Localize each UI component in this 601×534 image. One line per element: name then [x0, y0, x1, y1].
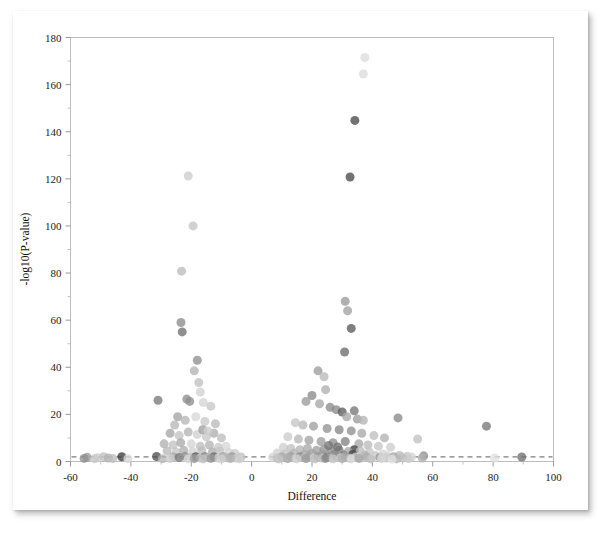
scatter-point — [226, 454, 235, 463]
scatter-point — [346, 172, 355, 181]
scatter-point — [329, 454, 338, 463]
scatter-point — [154, 396, 163, 405]
y-tick-label: 20 — [51, 408, 63, 420]
scatter-point — [490, 453, 499, 462]
scatter-point — [217, 454, 226, 463]
scatter-point — [211, 419, 220, 428]
scatter-point — [404, 454, 413, 463]
scatter-point — [235, 454, 244, 463]
y-tick-label: 120 — [45, 173, 62, 185]
scatter-point — [193, 356, 202, 365]
y-tick-label: 60 — [51, 314, 63, 326]
x-tick-label: 60 — [427, 471, 439, 483]
scatter-point — [482, 422, 491, 431]
scatter-point — [366, 454, 375, 463]
scatter-point — [360, 53, 369, 62]
scatter-point — [388, 455, 397, 464]
data-points-group — [80, 53, 527, 464]
scatter-point — [517, 453, 526, 462]
scatter-point — [190, 454, 199, 463]
y-axis-ticks: 020406080100120140160180 — [45, 32, 71, 468]
scatter-point — [294, 435, 303, 444]
y-tick-label: 40 — [51, 361, 63, 373]
screenshot-root: 020406080100120140160180 -60-40-20020406… — [0, 0, 601, 534]
scatter-point — [354, 454, 363, 463]
scatter-point — [292, 454, 301, 463]
scatter-point — [274, 454, 283, 463]
scatter-point — [413, 435, 422, 444]
x-tick-label: 20 — [307, 471, 319, 483]
scatter-point — [301, 397, 310, 406]
scatter-point — [341, 437, 350, 446]
y-tick-label: 140 — [45, 126, 62, 138]
scatter-point — [386, 443, 395, 452]
scatter-point — [206, 402, 215, 411]
scatter-point — [200, 417, 209, 426]
x-tick-label: 40 — [367, 471, 379, 483]
scatter-point — [166, 429, 175, 438]
scatter-point — [304, 436, 313, 445]
scatter-point — [187, 439, 196, 448]
scatter-point — [203, 426, 212, 435]
x-axis-title: Difference — [288, 490, 337, 502]
scatter-point — [359, 70, 368, 79]
y-tick-label: 100 — [45, 220, 62, 232]
scatter-point — [357, 429, 366, 438]
scatter-point — [311, 454, 320, 463]
scatter-point — [340, 347, 349, 356]
scatter-point — [108, 454, 117, 463]
scatter-point — [321, 385, 330, 394]
scatter-point — [418, 453, 427, 462]
scatter-point — [369, 431, 378, 440]
y-tick-label: 80 — [51, 267, 63, 279]
x-tick-label: 0 — [249, 471, 255, 483]
scatter-point — [323, 424, 332, 433]
scatter-point — [166, 454, 175, 463]
scatter-point — [217, 433, 226, 442]
scatter-point — [309, 422, 318, 431]
scatter-point — [298, 420, 307, 429]
scatter-point — [341, 297, 350, 306]
scatter-point — [194, 378, 203, 387]
x-tick-label: -20 — [184, 471, 199, 483]
scatter-point — [123, 454, 132, 463]
volcano-plot-svg: 020406080100120140160180 -60-40-20020406… — [13, 11, 588, 510]
y-tick-label: 180 — [45, 32, 62, 44]
x-tick-label: -60 — [63, 471, 78, 483]
x-tick-label: 100 — [545, 471, 562, 483]
scatter-point — [338, 454, 347, 463]
figure-card: 020406080100120140160180 -60-40-20020406… — [13, 11, 588, 510]
y-tick-label: 160 — [45, 79, 62, 91]
scatter-point — [283, 432, 292, 441]
scatter-point — [206, 454, 215, 463]
scatter-point — [347, 324, 356, 333]
scatter-point — [191, 412, 200, 421]
scatter-point — [181, 416, 190, 425]
scatter-point — [185, 397, 194, 406]
scatter-point — [333, 442, 342, 451]
scatter-point — [380, 433, 389, 442]
y-axis-title: -log10(P-value) — [19, 212, 32, 285]
scatter-point — [347, 426, 356, 435]
scatter-point — [335, 425, 344, 434]
scatter-point — [190, 366, 199, 375]
scatter-point — [324, 441, 333, 450]
scatter-point — [178, 327, 187, 336]
scatter-point — [301, 454, 310, 463]
x-tick-label: -40 — [124, 471, 139, 483]
scatter-point — [170, 420, 179, 429]
scatter-point — [315, 399, 324, 408]
scatter-point — [394, 413, 403, 422]
scatter-point — [176, 318, 185, 327]
scatter-point — [184, 172, 193, 181]
scatter-point — [90, 454, 99, 463]
scatter-point — [189, 221, 198, 230]
y-tick-label: 0 — [56, 456, 62, 468]
scatter-point — [80, 454, 89, 463]
scatter-point — [320, 372, 329, 381]
scatter-point — [184, 428, 193, 437]
scatter-point — [196, 388, 205, 397]
scatter-point — [177, 267, 186, 276]
scatter-point — [350, 116, 359, 125]
chart-container: 020406080100120140160180 -60-40-20020406… — [13, 11, 588, 510]
